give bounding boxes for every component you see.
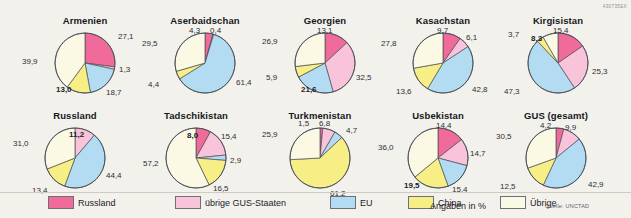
chart-title-gus-gesamt: GUS (gesamt)	[486, 110, 626, 121]
legend-swatch-uebrige-gus-staaten	[175, 196, 201, 209]
legend-label-uebrige-gus-staaten: übrige GUS-Staaten	[205, 198, 286, 208]
legend-swatch-uebrige	[500, 196, 526, 209]
legend: Russlandübrige GUS-StaatenEUChinaÜbrige	[0, 194, 631, 214]
value-label-gus-gesamt-russland: 4,2	[540, 122, 551, 130]
legend-item-eu[interactable]: EU	[330, 196, 373, 209]
legend-swatch-eu	[330, 196, 356, 209]
legend-item-russland[interactable]: Russland	[48, 196, 116, 209]
infographic-board: 430735EX Armenien27,11,318,713,039,9Aser…	[0, 0, 631, 218]
legend-swatch-russland	[48, 196, 74, 209]
source-note: Quelle: UNCTAD	[545, 203, 589, 209]
pie-gus-gesamt	[0, 0, 631, 218]
legend-item-uebrige-gus-staaten[interactable]: übrige GUS-Staaten	[175, 196, 286, 209]
value-label-gus-gesamt-eu: 42,9	[588, 181, 604, 189]
legend-label-eu: EU	[360, 198, 373, 208]
value-label-gus-gesamt-china: 12,5	[500, 183, 516, 191]
value-label-gus-gesamt-uebrige: 30,5	[496, 133, 512, 141]
units-note: Angaben in %	[430, 201, 486, 211]
legend-divider	[0, 192, 631, 193]
legend-label-russland: Russland	[78, 198, 116, 208]
value-label-gus-gesamt-uebrige-gus-staaten: 9,9	[565, 124, 576, 132]
